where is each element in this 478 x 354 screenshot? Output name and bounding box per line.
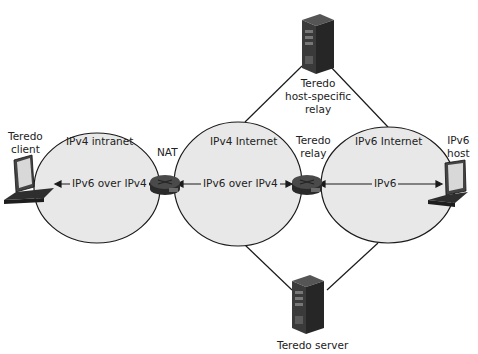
node-label-nat: NAT xyxy=(157,146,178,159)
node-label-teredo-server: Teredo server xyxy=(277,339,348,352)
link-server-to-ipv6-internet xyxy=(327,243,378,290)
router-icon-nat xyxy=(150,175,180,195)
network-label-ipv4-intranet: IPv4 intranet xyxy=(66,135,133,148)
link-ipv4-internet-to-server xyxy=(245,245,292,290)
node-label-ipv6-host: IPv6 host xyxy=(447,134,470,160)
network-label-ipv6-internet: IPv6 Internet xyxy=(355,135,422,148)
server-icon-teredo-server xyxy=(292,275,324,334)
router-icon-teredo-relay xyxy=(292,175,322,195)
link-label-relay-host: IPv6 xyxy=(372,177,398,190)
node-label-teredo-client: Teredo client xyxy=(8,130,43,156)
network-label-ipv4-internet: IPv4 Internet xyxy=(210,135,277,148)
node-label-host-specific-relay: Teredo host-specific relay xyxy=(285,77,351,116)
server-icon-host-specific-relay xyxy=(302,14,334,74)
link-label-client-nat: IPv6 over IPv4 xyxy=(70,177,149,190)
link-label-nat-relay: IPv6 over IPv4 xyxy=(201,177,280,190)
node-label-teredo-relay: Teredo relay xyxy=(296,134,331,160)
